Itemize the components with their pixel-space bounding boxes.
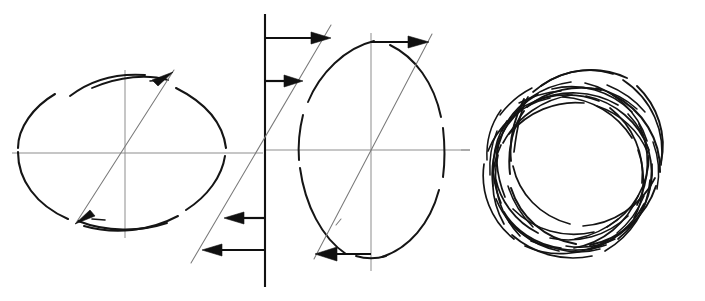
right-ellipse-arc-top-right xyxy=(390,45,441,117)
panel-envelope xyxy=(461,70,663,258)
left-ellipse-arrow-tail-top xyxy=(150,80,163,81)
right-ellipse-arc-top-left xyxy=(308,41,374,102)
envelope-rotated-arc-5a xyxy=(496,199,559,251)
left-ellipse-arc-lower-right xyxy=(186,156,225,210)
right-ellipse-arc-right-lower xyxy=(382,190,439,257)
velocity-profile-shear-line xyxy=(191,25,331,263)
figure-root: Hand-drawn sketch: rotating ellipse and … xyxy=(0,0,705,301)
right-ellipse-diagonal-tick xyxy=(336,219,341,225)
right-ellipse-diagonal-axis xyxy=(314,34,432,259)
left-ellipse-arrowhead-top xyxy=(152,72,173,86)
sketch-canvas xyxy=(0,0,705,301)
envelope-rotated-arc-1d xyxy=(513,209,594,234)
panel-right-ellipse xyxy=(266,33,470,271)
ellipse-arrow-bottom xyxy=(315,247,371,261)
envelope-rotated-arc-8b xyxy=(637,86,663,162)
left-ellipse-arc-upper-left xyxy=(18,94,55,148)
left-ellipse-arrowhead-bottom xyxy=(75,210,95,224)
envelope-rotated-arc-8a xyxy=(541,70,627,86)
velocity-arrow-top-2 xyxy=(265,75,303,87)
panel-left-ellipse xyxy=(12,70,263,238)
left-ellipse-arc-lower-left xyxy=(18,152,68,219)
velocity-arrow-bottom-1 xyxy=(224,212,265,224)
envelope-rotated-arc-0d xyxy=(513,166,570,224)
ellipse-arrow-top xyxy=(371,36,429,48)
left-ellipse-arc-upper-right xyxy=(176,88,226,148)
right-ellipse-arc-left-upper xyxy=(299,115,303,160)
velocity-arrow-bottom-2 xyxy=(202,244,265,256)
right-ellipse-arc-right-upper xyxy=(443,128,445,177)
left-ellipse-arrow-tail-bottom xyxy=(92,219,105,220)
